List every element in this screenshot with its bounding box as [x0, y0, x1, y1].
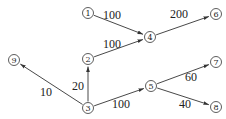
- graph-diagram: 10010020020101006040 123456789: [0, 0, 226, 119]
- node-label: 3: [85, 104, 90, 113]
- edge-weight-5-8: 40: [179, 97, 191, 111]
- node-7: 7: [211, 57, 222, 68]
- node-label: 6: [213, 10, 218, 19]
- node-label: 7: [213, 58, 218, 67]
- node-1: 1: [83, 8, 94, 19]
- node-5: 5: [146, 81, 157, 92]
- node-label: 4: [147, 33, 152, 42]
- node-label: 8: [213, 103, 218, 112]
- node-label: 2: [85, 55, 90, 64]
- graph-svg: 10010020020101006040 123456789: [0, 0, 226, 119]
- edge-weight-1-4: 100: [103, 8, 121, 22]
- node-9: 9: [9, 55, 20, 66]
- node-3: 3: [83, 103, 94, 114]
- node-label: 1: [85, 9, 90, 18]
- edge-weight-5-7: 60: [185, 70, 197, 84]
- node-4: 4: [145, 32, 156, 43]
- node-2: 2: [83, 54, 94, 65]
- edge-weight-2-4: 100: [103, 37, 121, 51]
- edge-weight-4-6: 200: [170, 7, 188, 21]
- edge-weight-3-2: 20: [72, 79, 84, 93]
- node-label: 5: [148, 82, 153, 91]
- node-6: 6: [211, 9, 222, 20]
- edge-weight-3-9: 10: [40, 85, 52, 99]
- edge-5-to-7: [157, 65, 209, 84]
- node-label: 9: [11, 56, 16, 65]
- node-8: 8: [211, 102, 222, 113]
- edge-weight-3-5: 100: [112, 97, 130, 111]
